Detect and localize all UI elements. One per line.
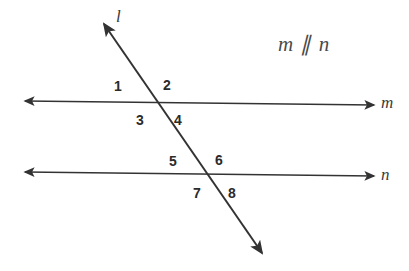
angle-label-3: 3	[136, 113, 144, 127]
angle-label-4: 4	[174, 113, 182, 127]
line-label-m: m	[381, 94, 393, 111]
line-label-l: l	[116, 8, 121, 25]
angle-label-7: 7	[193, 186, 201, 200]
geometry-diagram: m ∥ n l m n 1 2 3 4 5 6 7 8	[0, 0, 409, 271]
parallel-relation-label: m ∥ n	[278, 34, 330, 55]
angle-label-8: 8	[228, 186, 236, 200]
angle-label-5: 5	[169, 154, 177, 168]
diagram-canvas	[0, 0, 409, 271]
line-label-n: n	[381, 166, 390, 183]
angle-label-2: 2	[163, 78, 171, 92]
angle-label-1: 1	[114, 79, 122, 93]
angle-label-6: 6	[215, 153, 223, 167]
parallel-line-m	[25, 101, 374, 105]
transversal-line-l	[104, 24, 262, 253]
parallel-line-n	[25, 172, 374, 176]
